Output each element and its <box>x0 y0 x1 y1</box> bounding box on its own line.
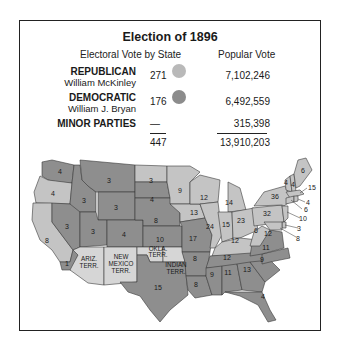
svg-text:8: 8 <box>45 237 49 244</box>
svg-text:8: 8 <box>154 217 158 224</box>
svg-text:TERR.: TERR. <box>167 268 186 275</box>
svg-text:8: 8 <box>296 235 300 242</box>
svg-text:9: 9 <box>210 271 214 278</box>
svg-text:32: 32 <box>263 210 271 217</box>
state-FL <box>225 292 276 322</box>
svg-text:9: 9 <box>260 256 264 263</box>
svg-text:4: 4 <box>284 179 288 186</box>
svg-text:13: 13 <box>190 209 198 216</box>
svg-text:10: 10 <box>299 215 307 222</box>
svg-text:3: 3 <box>114 204 118 211</box>
svg-text:8: 8 <box>194 281 198 288</box>
svg-text:9: 9 <box>178 187 182 194</box>
svg-text:MEXICO: MEXICO <box>109 260 134 267</box>
svg-text:3: 3 <box>149 177 153 184</box>
svg-text:TERR.: TERR. <box>149 251 168 258</box>
svg-text:INDIAN: INDIAN <box>165 261 187 268</box>
svg-text:23: 23 <box>237 217 245 224</box>
svg-text:NEW: NEW <box>114 253 129 260</box>
svg-text:TERR.: TERR. <box>112 267 131 274</box>
svg-text:6: 6 <box>304 206 308 213</box>
svg-text:3: 3 <box>65 223 69 230</box>
svg-text:4: 4 <box>122 231 126 238</box>
svg-text:24: 24 <box>206 223 214 230</box>
us-electoral-map: 4 4 8 1 3 3 3 3 3 4 3 4 8 10 15 9 13 17 … <box>0 0 338 348</box>
svg-text:11: 11 <box>262 244 269 251</box>
svg-text:13: 13 <box>243 266 251 273</box>
svg-text:14: 14 <box>225 199 233 206</box>
svg-text:3: 3 <box>82 197 86 204</box>
svg-text:6: 6 <box>254 227 258 234</box>
svg-text:4: 4 <box>261 293 265 300</box>
svg-text:11: 11 <box>224 269 231 276</box>
svg-text:4: 4 <box>150 196 154 203</box>
svg-text:15: 15 <box>222 221 230 228</box>
state-MI <box>228 182 246 212</box>
svg-text:12: 12 <box>231 237 239 244</box>
svg-text:12: 12 <box>223 254 231 261</box>
svg-text:1: 1 <box>65 260 69 267</box>
svg-text:17: 17 <box>189 235 197 242</box>
svg-text:4: 4 <box>58 168 62 175</box>
svg-text:4: 4 <box>306 199 310 206</box>
svg-text:15: 15 <box>308 184 316 191</box>
svg-text:4: 4 <box>291 181 295 188</box>
svg-text:36: 36 <box>271 193 279 200</box>
svg-text:6: 6 <box>301 167 305 174</box>
svg-text:8: 8 <box>193 255 197 262</box>
svg-text:15: 15 <box>154 284 162 291</box>
state-RI <box>294 196 298 202</box>
svg-text:4: 4 <box>51 190 55 197</box>
svg-text:3: 3 <box>297 225 301 232</box>
svg-text:ARIZ.: ARIZ. <box>81 255 97 262</box>
svg-text:12: 12 <box>264 230 272 237</box>
svg-text:3: 3 <box>91 228 95 235</box>
svg-text:12: 12 <box>200 194 208 201</box>
svg-text:10: 10 <box>156 236 164 243</box>
svg-text:TERR.: TERR. <box>80 262 99 269</box>
svg-text:3: 3 <box>107 177 111 184</box>
